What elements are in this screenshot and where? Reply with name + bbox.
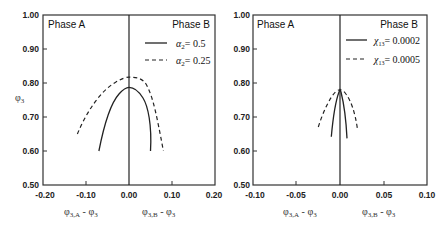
- y-tick: 0.60: [22, 146, 39, 156]
- x-axis-label-phase-a: φ3,A - φ3: [64, 206, 98, 219]
- x-tick-labels: -0.10 -0.05 0.00 0.05 0.10: [245, 190, 435, 200]
- curve-chi-0.0002: [331, 90, 347, 139]
- right-chart: 1.00 0.90 0.80 0.70 0.60 0.50 -0.10 -0.0…: [233, 10, 435, 219]
- figure: 1.00 0.90 0.80 0.70 0.60 0.50 -0.20 -0.1…: [0, 0, 447, 225]
- phase-b-label: Phase B: [172, 19, 210, 30]
- y-axis-label: φ3: [15, 92, 25, 105]
- x-tick: 0.05: [376, 190, 393, 200]
- y-tick-labels: 1.00 0.90 0.80 0.70 0.60 0.50: [22, 10, 39, 190]
- x-tick: 0.00: [332, 190, 349, 200]
- y-tick: 1.00: [233, 10, 250, 20]
- x-tick: -0.10: [76, 190, 96, 200]
- y-tick: 0.70: [233, 112, 250, 122]
- curve-alpha-0.5: [99, 87, 151, 151]
- y-tick-marks: [253, 49, 257, 151]
- phase-a-label: Phase A: [257, 19, 295, 30]
- y-tick: 0.80: [233, 78, 250, 88]
- y-tick: 0.80: [22, 78, 39, 88]
- x-axis-label-phase-a: φ3,A - φ3: [283, 206, 317, 219]
- legend-entry: χ13= 0.0005: [373, 54, 420, 66]
- y-tick-labels: 1.00 0.90 0.80 0.70 0.60 0.50: [233, 10, 250, 190]
- y-tick: 0.50: [233, 180, 250, 190]
- left-chart: 1.00 0.90 0.80 0.70 0.60 0.50 -0.20 -0.1…: [15, 10, 223, 219]
- legend-entry: α2= 0.5: [176, 38, 205, 51]
- x-tick: 0.00: [121, 190, 138, 200]
- x-tick: 0.10: [164, 190, 181, 200]
- legend-entry: α2= 0.25: [176, 55, 210, 68]
- phase-b-label: Phase B: [380, 19, 418, 30]
- y-tick: 1.00: [22, 10, 39, 20]
- y-tick: 0.50: [22, 180, 39, 190]
- x-tick: -0.10: [245, 190, 265, 200]
- x-tick: 0.10: [419, 190, 436, 200]
- x-tick-labels: -0.20 -0.10 0.00 0.10 0.20: [35, 190, 222, 200]
- y-tick: 0.90: [22, 44, 39, 54]
- phase-a-label: Phase A: [48, 19, 86, 30]
- legend: χ13= 0.0002 χ13= 0.0005: [346, 35, 420, 66]
- legend-entry: χ13= 0.0002: [373, 35, 420, 47]
- legend: α2= 0.5 α2= 0.25: [145, 38, 210, 68]
- y-tick: 0.60: [233, 146, 250, 156]
- y-tick: 0.70: [22, 112, 39, 122]
- x-axis-label-phase-b: φ3,B - φ3: [362, 206, 396, 219]
- x-tick: 0.20: [206, 190, 223, 200]
- x-tick: -0.20: [35, 190, 55, 200]
- x-tick: -0.05: [286, 190, 306, 200]
- y-tick: 0.90: [233, 44, 250, 54]
- x-axis-label-phase-b: φ3,B - φ3: [142, 206, 176, 219]
